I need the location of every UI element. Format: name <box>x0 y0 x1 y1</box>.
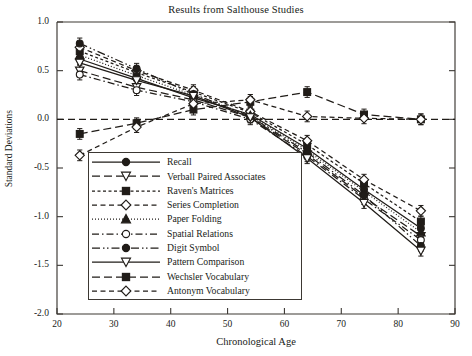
chart-figure: Results from Salthouse Studies Standard … <box>0 0 472 356</box>
legend-item[interactable]: Antonym Vocabulary <box>88 284 302 298</box>
legend-item-label: Verball Paired Associates <box>164 172 265 182</box>
x-tick-label: 70 <box>326 319 356 329</box>
legend-item-label: Raven's Matrices <box>164 186 234 196</box>
legend-item[interactable]: Digit Symbol <box>88 241 302 255</box>
x-tick-label: 20 <box>42 319 72 329</box>
legend-item[interactable]: Series Completion <box>88 198 302 212</box>
y-tick-label: 0.5 <box>19 65 49 75</box>
legend-item-label: Paper Folding <box>164 214 222 224</box>
legend-item-label: Wechsler Vocabulary <box>164 272 249 282</box>
y-tick-label: -0.5 <box>19 162 49 172</box>
legend-item[interactable]: Verball Paired Associates <box>88 169 302 183</box>
y-tick-label: -1.5 <box>19 259 49 269</box>
legend-line-sample <box>88 184 164 198</box>
legend-item[interactable]: Recall <box>88 155 302 169</box>
legend-item-label: Spatial Relations <box>164 229 233 239</box>
x-tick-label: 80 <box>383 319 413 329</box>
legend-line-sample <box>88 241 164 255</box>
legend-item-label: Series Completion <box>164 200 239 210</box>
legend-item[interactable]: Raven's Matrices <box>88 184 302 198</box>
legend-item[interactable]: Wechsler Vocabulary <box>88 269 302 283</box>
y-tick-label: 0.0 <box>19 113 49 123</box>
x-tick-label: 50 <box>213 319 243 329</box>
legend-line-sample <box>88 255 164 269</box>
x-tick-label: 30 <box>99 319 129 329</box>
legend: RecallVerball Paired AssociatesRaven's M… <box>88 152 302 300</box>
legend-line-sample <box>88 227 164 241</box>
legend-item-label: Antonym Vocabulary <box>164 286 250 296</box>
x-tick-label: 60 <box>269 319 299 329</box>
legend-line-sample <box>88 284 164 298</box>
legend-line-sample <box>88 212 164 226</box>
legend-line-sample <box>88 270 164 284</box>
legend-line-sample <box>88 169 164 183</box>
legend-line-sample <box>88 155 164 169</box>
legend-line-sample <box>88 198 164 212</box>
legend-item-label: Pattern Comparison <box>164 257 244 267</box>
x-tick-label: 40 <box>156 319 186 329</box>
legend-item-label: Digit Symbol <box>164 243 219 253</box>
legend-item[interactable]: Spatial Relations <box>88 226 302 240</box>
y-tick-label: -1.0 <box>19 211 49 221</box>
y-tick-label: 1.0 <box>19 16 49 26</box>
legend-item[interactable]: Pattern Comparison <box>88 255 302 269</box>
y-tick-label: -2.0 <box>19 308 49 318</box>
legend-item[interactable]: Paper Folding <box>88 212 302 226</box>
legend-item-label: Recall <box>164 157 192 167</box>
x-tick-label: 90 <box>440 319 470 329</box>
